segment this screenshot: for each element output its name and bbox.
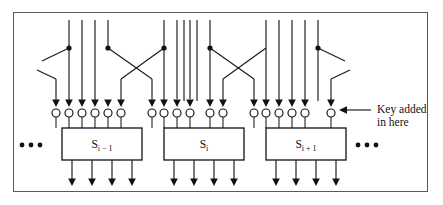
xor-gate-g3-5	[301, 109, 309, 117]
xor-gate-g3-6	[327, 109, 335, 117]
xor-gate-g1-2	[65, 109, 73, 117]
xor-gate-g3-3	[275, 109, 283, 117]
ellipsis-right-dot-3	[374, 143, 379, 148]
xor-gate-g2-3	[173, 109, 181, 117]
sbox-sub-3: i + 1	[302, 144, 317, 153]
cipher-round-figure: Si − 1	[0, 0, 443, 205]
ellipsis-left-dot-2	[29, 143, 34, 148]
ellipsis-right-dot-2	[365, 143, 370, 148]
ellipsis-left-dot-1	[20, 143, 25, 148]
xor-gate-g1-5	[104, 109, 112, 117]
ellipsis-left-dot-3	[38, 143, 43, 148]
tap-dot-g2-a	[161, 45, 166, 50]
xor-gate-g1-3	[78, 109, 86, 117]
cipher-round-diagram-svg: Si − 1	[0, 0, 443, 205]
xor-gate-g3-4	[288, 109, 296, 117]
xor-gate-g3-2	[262, 109, 270, 117]
ellipsis-right-dot-1	[356, 143, 361, 148]
xor-gate-g1-1	[52, 109, 60, 117]
callout-line-1: Key added	[377, 103, 427, 116]
ellipsis-left	[20, 143, 43, 148]
xor-gate-g2-1	[148, 109, 156, 117]
xor-gate-g1-4	[91, 109, 99, 117]
callout-line-2: in here	[377, 116, 409, 128]
xor-gate-g2-4	[186, 109, 194, 117]
xor-gate-g3-1	[250, 109, 258, 117]
xor-gate-g2-6	[219, 109, 227, 117]
ellipsis-right	[356, 143, 379, 148]
sbox-sub-1: i − 1	[98, 144, 113, 153]
xor-gate-g1-6	[117, 109, 125, 117]
xor-gate-g2-2	[160, 109, 168, 117]
xor-gate-g2-5	[206, 109, 214, 117]
